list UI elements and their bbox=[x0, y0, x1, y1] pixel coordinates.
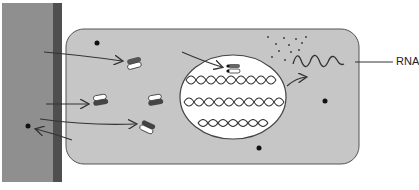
rna-label: RNA bbox=[396, 55, 419, 67]
extracellular-region bbox=[2, 3, 55, 182]
cell-diagram bbox=[0, 0, 419, 190]
cell-membrane bbox=[53, 3, 62, 182]
